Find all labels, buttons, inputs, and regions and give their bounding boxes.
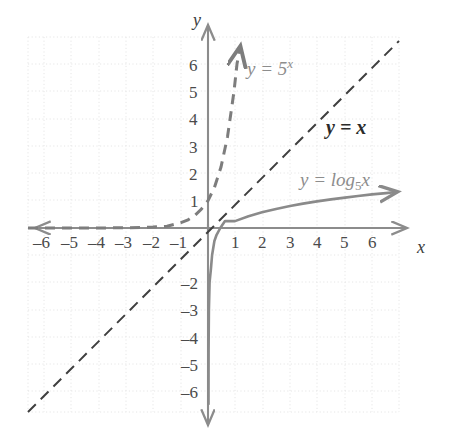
y-tick-neg-6: –6 <box>181 384 198 401</box>
y-tick-neg-5: –5 <box>181 357 198 374</box>
x-tick-neg-6: –6 <box>33 234 50 251</box>
y-tick-2: 2 <box>189 166 198 183</box>
function-graph-figure: y x 6 5 4 3 2 1 –2 –3 –4 –5 –6 –6 –5 –4 … <box>0 0 449 440</box>
log-label-argument: x <box>362 169 370 190</box>
x-tick-2: 2 <box>258 234 267 251</box>
x-tick-neg-4: –4 <box>88 234 105 251</box>
x-tick-neg-1: –1 <box>170 234 187 251</box>
x-tick-neg-2: –2 <box>143 234 160 251</box>
graph-canvas <box>0 0 449 440</box>
x-tick-4: 4 <box>313 234 322 251</box>
x-tick-neg-3: –3 <box>115 234 132 251</box>
logarithm-curve <box>209 192 397 404</box>
y-tick-4: 4 <box>189 111 198 128</box>
y-axis-label: y <box>193 11 201 29</box>
y-tick-1: 1 <box>190 193 199 210</box>
y-tick-neg-4: –4 <box>181 330 198 347</box>
y-tick-neg-3: –3 <box>181 302 198 319</box>
x-tick-neg-5: –5 <box>61 234 78 251</box>
exp-label-exponent: x <box>287 56 293 71</box>
x-axis-label: x <box>417 238 425 256</box>
y-tick-3: 3 <box>189 139 198 156</box>
exp-label-main: y = 5 <box>247 58 287 79</box>
x-tick-3: 3 <box>286 234 295 251</box>
y-tick-6: 6 <box>189 57 198 74</box>
identity-line-label: y = x <box>326 117 366 137</box>
log-curve-label: y = log5x <box>300 170 370 192</box>
x-tick-6: 6 <box>368 234 377 251</box>
x-tick-5: 5 <box>340 234 349 251</box>
y-tick-neg-2: –2 <box>181 275 198 292</box>
x-tick-1: 1 <box>231 234 240 251</box>
y-tick-5: 5 <box>189 84 198 101</box>
exponential-curve-label: y = 5x <box>247 57 293 78</box>
log-label-main: y = log <box>300 169 355 190</box>
